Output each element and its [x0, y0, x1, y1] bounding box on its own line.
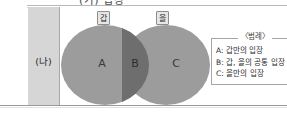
venn-tag-right: 을 [156, 11, 169, 25]
venn-tag-left: 갑 [97, 11, 110, 25]
table-bottom-border [0, 105, 287, 106]
table-bottom-border-shadow [0, 107, 287, 108]
legend-list: A: 갑만의 입장 B: 갑, 을의 공통 입장 C: 을만의 입장 [216, 45, 287, 80]
venn-diagram: A B C 갑 을 [60, 7, 212, 105]
row-label-cell: (나) [28, 7, 60, 105]
legend-item-b: B: 갑, 을의 공통 입장 [216, 57, 287, 69]
venn-region-label-a: A [93, 57, 111, 70]
venn-region-label-b: B [126, 57, 144, 70]
legend-box: 〈범례〉 A: 갑만의 입장 B: 갑, 을의 공통 입장 C: 을만의 입장 [211, 38, 287, 85]
row-label-text: (나) [28, 57, 59, 67]
venn-region-label-c: C [167, 57, 185, 70]
legend-item-c: C: 을만의 입장 [216, 68, 287, 80]
figure-screenshot: (가) 입장 (나) A B C 갑 을 〈범례〉 A: 갑만의 입장 B: 갑… [0, 0, 287, 118]
legend-item-a: A: 갑만의 입장 [216, 45, 287, 57]
legend-title: 〈범례〉 [238, 33, 272, 41]
table-top-border [27, 5, 287, 6]
figure-content-cell: A B C 갑 을 〈범례〉 A: 갑만의 입장 B: 갑, 을의 공통 입장 … [60, 7, 287, 105]
